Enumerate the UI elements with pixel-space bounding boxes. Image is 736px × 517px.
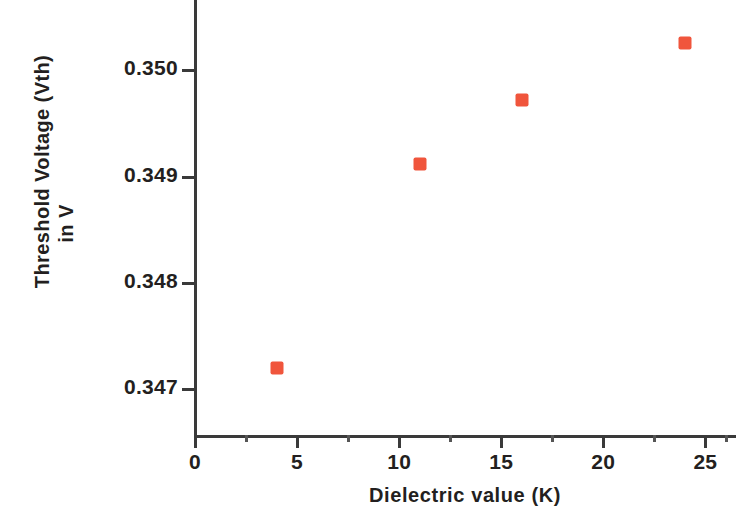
y-axis-tick xyxy=(182,282,196,285)
y-axis-title-line-1: Threshold Voltage (Vth) xyxy=(31,12,54,332)
x-axis-tick xyxy=(296,435,299,448)
y-axis-tick xyxy=(182,388,196,391)
x-axis-tick xyxy=(194,435,197,448)
y-axis-title: Threshold Voltage (Vth) in V xyxy=(0,0,76,438)
y-axis-tick-label: 0.348 xyxy=(78,269,178,293)
x-axis-minor-tick xyxy=(347,435,350,442)
data-point-marker xyxy=(678,36,691,49)
y-axis-tick xyxy=(182,69,196,72)
x-axis-tick-label: 0 xyxy=(189,450,201,474)
x-axis-title: Dielectric value (K) xyxy=(194,484,736,507)
x-axis-tick xyxy=(398,435,401,448)
scatter-chart-figure: 0.3470.3480.3490.350 0510152025 Threshol… xyxy=(0,0,736,517)
x-axis-tick xyxy=(500,435,503,448)
y-axis-tick xyxy=(182,176,196,179)
data-point-marker xyxy=(270,361,283,374)
y-axis-tick-label: 0.347 xyxy=(78,375,178,399)
x-axis-tick-label: 10 xyxy=(387,450,411,474)
x-axis-minor-tick xyxy=(725,435,728,442)
x-axis-tick-label: 25 xyxy=(693,450,717,474)
x-axis-tick-label: 15 xyxy=(489,450,513,474)
x-axis-minor-tick xyxy=(653,435,656,442)
x-axis-minor-tick xyxy=(449,435,452,442)
data-point-marker xyxy=(515,94,528,107)
data-point-marker xyxy=(413,157,426,170)
y-axis-title-line-2: in V xyxy=(55,64,78,384)
x-axis-minor-tick xyxy=(245,435,248,442)
x-axis-tick-label: 5 xyxy=(291,450,303,474)
x-axis-tick xyxy=(704,435,707,448)
y-axis-line xyxy=(194,0,197,438)
x-axis-tick-label: 20 xyxy=(591,450,615,474)
y-axis-tick-label: 0.350 xyxy=(78,56,178,80)
x-axis-tick xyxy=(602,435,605,448)
x-axis-minor-tick xyxy=(551,435,554,442)
y-axis-tick-label: 0.349 xyxy=(78,163,178,187)
